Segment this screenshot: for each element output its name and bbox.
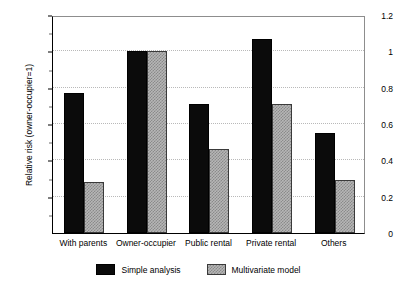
x-tick-label: Others (302, 238, 365, 248)
legend-item: Simple analysis (96, 264, 180, 275)
chart-legend: Simple analysisMultivariate model (0, 264, 397, 275)
x-tick-label: Owner-occupier (115, 238, 178, 248)
y-axis-title: Relative risk (owner-occupier=1) (22, 16, 36, 234)
bar-group (178, 17, 241, 233)
bar (84, 182, 104, 233)
x-tick-label: Public rental (177, 238, 240, 248)
legend-label: Simple analysis (121, 265, 180, 275)
x-tick-label: Private rental (240, 238, 303, 248)
x-tick-label: With parents (52, 238, 115, 248)
legend-swatch-icon (207, 264, 226, 275)
bar (252, 39, 272, 233)
bar (315, 133, 335, 233)
legend-item: Multivariate model (207, 264, 301, 275)
bar (64, 93, 84, 233)
bar (147, 51, 167, 233)
bar-group (116, 17, 179, 233)
bar-group (303, 17, 366, 233)
legend-label: Multivariate model (232, 265, 301, 275)
bar (209, 149, 229, 233)
plot-area (52, 16, 365, 234)
bar (189, 104, 209, 233)
bar-chart-figure: Relative risk (owner-occupier=1) 00.20.4… (0, 0, 397, 294)
bar (335, 180, 355, 233)
legend-swatch-icon (96, 264, 115, 275)
bar-group (241, 17, 304, 233)
bar (127, 51, 147, 233)
bar-group (53, 17, 116, 233)
bar (272, 104, 292, 233)
